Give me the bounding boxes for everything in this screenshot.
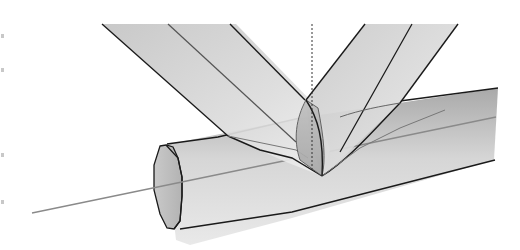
edge-mark — [1, 153, 4, 157]
edge-mark — [1, 34, 4, 38]
edge-mark — [1, 200, 4, 204]
diagram-canvas — [0, 0, 520, 250]
left-edge-marks — [0, 0, 6, 250]
pipe-intersection-diagram — [0, 0, 520, 250]
edge-mark — [1, 68, 4, 72]
